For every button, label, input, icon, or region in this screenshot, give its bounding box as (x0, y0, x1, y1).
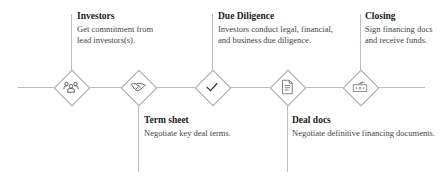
step-description: Sign financing docs and receive funds. (365, 24, 443, 45)
desc-line: Negotiate key deal terms. (144, 128, 284, 139)
step-description: Negotiate definitive financing documents… (292, 128, 442, 139)
step-deal-docs: Deal docs Negotiate definitive financing… (292, 115, 442, 139)
step-title: Deal docs (292, 115, 442, 125)
money-icon (349, 76, 371, 98)
handshake-icon (127, 76, 149, 98)
step-description: Negotiate key deal terms. (144, 128, 284, 139)
connector-closing (360, 14, 361, 72)
step-due-diligence: Due Diligence Investors conduct legal, f… (218, 11, 368, 45)
step-title: Term sheet (144, 115, 284, 125)
step-title: Due Diligence (218, 11, 368, 21)
desc-line: Investors conduct legal, financial, (218, 24, 368, 35)
desc-line: and business due diligence. (218, 35, 368, 46)
connector-due-diligence (212, 14, 213, 72)
desc-line: Negotiate definitive financing documents… (292, 128, 442, 139)
desc-line: Sign financing docs (365, 24, 443, 35)
document-icon (276, 76, 298, 98)
step-closing: Closing Sign financing docs and receive … (365, 11, 443, 45)
connector-investors (71, 14, 72, 72)
step-term-sheet: Term sheet Negotiate key deal terms. (144, 115, 284, 139)
connector-deal-docs (287, 102, 288, 172)
step-investors: Investors Get commitment from lead inves… (77, 11, 187, 45)
checkmark-icon (201, 76, 223, 98)
people-group-icon (60, 76, 82, 98)
connector-term-sheet (138, 102, 139, 172)
step-description: Get commitment from lead investors(s). (77, 24, 187, 45)
step-title: Investors (77, 11, 187, 21)
step-description: Investors conduct legal, financial, and … (218, 24, 368, 45)
desc-line: and receive funds. (365, 35, 443, 46)
step-title: Closing (365, 11, 443, 21)
desc-line: Get commitment from (77, 24, 187, 35)
desc-line: lead investors(s). (77, 35, 187, 46)
